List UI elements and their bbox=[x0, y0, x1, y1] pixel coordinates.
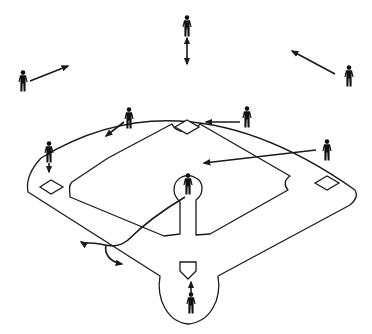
right-fielder-icon bbox=[344, 65, 353, 86]
shortstop-icon bbox=[124, 107, 133, 128]
infield-grass-outline bbox=[70, 124, 291, 236]
field-svg bbox=[0, 0, 372, 334]
third-baseman-icon bbox=[44, 141, 53, 162]
first-baseman-icon bbox=[322, 139, 331, 160]
home-plate bbox=[180, 262, 196, 279]
left-fielder-arrow bbox=[30, 66, 68, 81]
left-fielder-icon bbox=[18, 70, 27, 91]
center-fielder-icon bbox=[182, 15, 191, 36]
right-fielder-arrow bbox=[292, 51, 335, 74]
baseball-diagram bbox=[0, 0, 372, 334]
movement-arrows bbox=[30, 38, 335, 294]
third-base bbox=[40, 180, 63, 194]
bases bbox=[40, 120, 339, 279]
batted-ball-path bbox=[81, 197, 185, 246]
batted-ball-branch bbox=[106, 245, 122, 264]
first-base bbox=[315, 176, 339, 190]
catcher-icon bbox=[186, 292, 195, 313]
second-baseman-icon bbox=[242, 106, 251, 127]
